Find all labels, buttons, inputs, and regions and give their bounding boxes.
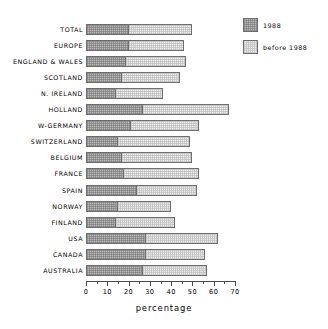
stacked-bar [86, 56, 186, 67]
bar-row: AUSTRALIA [0, 265, 328, 276]
bar-row: ENGLAND & WALES [0, 56, 328, 67]
x-tick-major [150, 282, 151, 286]
bar-row: CANADA [0, 249, 328, 260]
bar-segment-before-1988 [117, 136, 190, 147]
stacked-bar [86, 185, 197, 196]
bar-segment-1988 [86, 40, 129, 51]
bar-segment-before-1988 [128, 40, 184, 51]
bar-segment-before-1988 [136, 185, 197, 196]
bar-row-label: SWITZERLAND [1, 136, 83, 147]
x-tick-label: 40 [161, 288, 181, 296]
legend-label: 1988 [263, 21, 281, 30]
bar-segment-before-1988 [125, 56, 186, 67]
x-tick-minor [118, 282, 119, 284]
bar-segment-before-1988 [123, 168, 199, 179]
bar-segment-before-1988 [145, 249, 206, 260]
bar-row-label: SPAIN [1, 185, 83, 196]
x-tick-major [192, 282, 193, 286]
bar-row-label: W-GERMANY [1, 120, 83, 131]
bar-row-label: ENGLAND & WALES [1, 56, 83, 67]
x-tick-label: 0 [76, 288, 96, 296]
x-tick-minor [97, 282, 98, 284]
bar-segment-1988 [86, 120, 131, 131]
stacked-bar [86, 136, 190, 147]
bar-row: FRANCE [0, 168, 328, 179]
stacked-bar [86, 120, 199, 131]
bar-segment-1988 [86, 152, 122, 163]
bar-row: HOLLAND [0, 104, 328, 115]
bar-segment-before-1988 [121, 72, 179, 83]
x-tick-label: 30 [140, 288, 160, 296]
x-tick-minor [139, 282, 140, 284]
bar-row-label: SCOTLAND [1, 72, 83, 83]
bar-row-label: FRANCE [1, 168, 83, 179]
bar-row-label: FINLAND [1, 217, 83, 228]
bar-row-label: BELGIUM [1, 152, 83, 163]
bar-row: N. IRELAND [0, 88, 328, 99]
bar-segment-1988 [86, 201, 118, 212]
bar-segment-1988 [86, 24, 129, 35]
bar-segment-1988 [86, 56, 126, 67]
bar-row-label: CANADA [1, 249, 83, 260]
x-tick-label: 20 [119, 288, 139, 296]
stacked-bar [86, 233, 218, 244]
stacked-bar [86, 40, 184, 51]
bar-segment-before-1988 [117, 201, 171, 212]
bar-row: FINLAND [0, 217, 328, 228]
stacked-bar-chart: TOTALEUROPEENGLAND & WALESSCOTLANDN. IRE… [0, 0, 328, 329]
x-tick-label: 70 [225, 288, 245, 296]
bar-segment-1988 [86, 72, 122, 83]
bar-row-label: N. IRELAND [1, 88, 83, 99]
bar-row-label: USA [1, 233, 83, 244]
bar-segment-before-1988 [128, 24, 193, 35]
bar-row-label: HOLLAND [1, 104, 83, 115]
bar-row: NORWAY [0, 201, 328, 212]
bar-row: SCOTLAND [0, 72, 328, 83]
stacked-bar [86, 152, 192, 163]
x-tick-label: 10 [97, 288, 117, 296]
bar-segment-before-1988 [130, 120, 199, 131]
x-tick-major [129, 282, 130, 286]
stacked-bar [86, 168, 199, 179]
bar-segment-1988 [86, 168, 124, 179]
x-tick-minor [224, 282, 225, 284]
legend-swatch-1988 [243, 18, 258, 32]
bar-segment-before-1988 [145, 233, 218, 244]
stacked-bar [86, 201, 171, 212]
bar-row-label: NORWAY [1, 201, 83, 212]
x-axis-title: percentage [0, 303, 328, 313]
stacked-bar [86, 249, 205, 260]
legend-label: before 1988 [263, 43, 307, 52]
bar-segment-1988 [86, 233, 146, 244]
bar-row: BELGIUM [0, 152, 328, 163]
bar-segment-before-1988 [115, 217, 176, 228]
x-tick-label: 50 [182, 288, 202, 296]
stacked-bar [86, 265, 207, 276]
bar-segment-before-1988 [121, 152, 192, 163]
bar-segment-before-1988 [115, 88, 163, 99]
stacked-bar [86, 72, 180, 83]
x-tick-major [235, 282, 236, 286]
x-tick-minor [182, 282, 183, 284]
legend-swatch-before-1988 [243, 40, 258, 54]
bar-segment-1988 [86, 185, 137, 196]
x-tick-major [171, 282, 172, 286]
bar-row-label: EUROPE [1, 40, 83, 51]
stacked-bar [86, 24, 192, 35]
bar-segment-1988 [86, 265, 143, 276]
bar-row: SPAIN [0, 185, 328, 196]
bar-segment-1988 [86, 136, 118, 147]
x-tick-major [86, 282, 87, 286]
bar-segment-before-1988 [142, 104, 228, 115]
bar-row-label: AUSTRALIA [1, 265, 83, 276]
bar-segment-1988 [86, 104, 143, 115]
bar-segment-before-1988 [142, 265, 207, 276]
x-tick-major [214, 282, 215, 286]
x-tick-minor [161, 282, 162, 284]
stacked-bar [86, 104, 229, 115]
bar-segment-1988 [86, 88, 116, 99]
stacked-bar [86, 88, 163, 99]
bar-row: SWITZERLAND [0, 136, 328, 147]
stacked-bar [86, 217, 175, 228]
x-tick-minor [203, 282, 204, 284]
